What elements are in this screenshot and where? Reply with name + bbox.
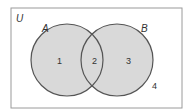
region-4-label: 4 [152, 81, 157, 91]
region-1-label: 1 [57, 56, 62, 66]
venn-diagram: U A B 1 2 3 4 [0, 0, 189, 111]
region-3-label: 3 [126, 56, 131, 66]
region-2-label: 2 [92, 56, 97, 66]
set-a-label: A [41, 23, 49, 34]
set-b-label: B [141, 23, 148, 34]
universe-label: U [16, 13, 24, 24]
